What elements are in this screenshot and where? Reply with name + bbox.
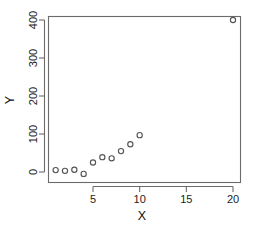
y-tick-label: 0 bbox=[27, 169, 39, 175]
y-tick-label: 100 bbox=[27, 125, 39, 143]
data-point bbox=[128, 142, 133, 147]
y-axis-ticks bbox=[39, 20, 45, 172]
data-point bbox=[109, 156, 114, 161]
y-tick-label: 200 bbox=[27, 87, 39, 105]
x-axis-title: X bbox=[138, 209, 147, 223]
data-point bbox=[118, 149, 123, 154]
data-point bbox=[72, 167, 77, 172]
data-point bbox=[53, 168, 58, 173]
x-tick-label: 20 bbox=[227, 193, 239, 205]
scatter-plot-figure: 0100200300400 5101520 X Y bbox=[0, 0, 261, 231]
data-point bbox=[62, 168, 67, 173]
data-points-layer bbox=[53, 17, 236, 176]
x-axis-ticks bbox=[93, 187, 233, 193]
plot-canvas: 0100200300400 5101520 X Y bbox=[0, 0, 261, 231]
x-tick-label: 5 bbox=[90, 193, 96, 205]
data-point bbox=[100, 155, 105, 160]
x-tick-label: 10 bbox=[134, 193, 146, 205]
plot-frame bbox=[49, 17, 241, 183]
y-tick-label: 300 bbox=[27, 49, 39, 67]
data-point bbox=[137, 133, 142, 138]
y-axis-tick-labels: 0100200300400 bbox=[27, 11, 39, 175]
data-point bbox=[230, 17, 235, 22]
y-axis-title: Y bbox=[3, 95, 17, 104]
data-point bbox=[90, 160, 95, 165]
data-point bbox=[81, 171, 86, 176]
x-tick-label: 15 bbox=[180, 193, 192, 205]
x-axis-tick-labels: 5101520 bbox=[90, 193, 239, 205]
y-tick-label: 400 bbox=[27, 11, 39, 29]
